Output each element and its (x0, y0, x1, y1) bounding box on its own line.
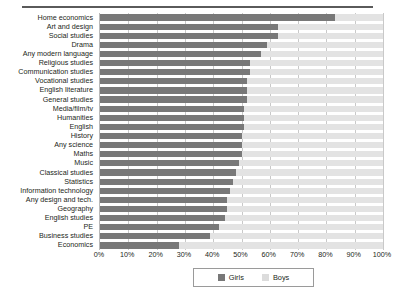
category-label: Humanities (57, 114, 93, 122)
bar-segment-girls (100, 60, 250, 66)
bar-segment-boys (210, 233, 383, 239)
bar-segment-girls (100, 42, 267, 48)
bar-row (100, 206, 383, 212)
category-label: Communication studies (18, 68, 93, 76)
bar-row (100, 151, 383, 157)
category-label: Drama (71, 41, 93, 49)
x-tick-label: 10% (120, 250, 134, 260)
bar-row (100, 96, 383, 102)
category-label: Music (74, 159, 93, 167)
x-tick-label: 90% (346, 250, 360, 260)
bar-row (100, 115, 383, 121)
bar-segment-boys (225, 215, 383, 221)
category-label: Media/film/tv (53, 105, 93, 113)
bar-segment-boys (242, 133, 384, 139)
category-label: Maths (73, 150, 93, 158)
category-axis-labels: Home economicsArt and designSocial studi… (0, 13, 96, 250)
bar-segment-girls (100, 206, 227, 212)
bar-segment-boys (247, 87, 383, 93)
stacked-bar-chart: Home economicsArt and designSocial studi… (0, 0, 395, 295)
bar-row (100, 87, 383, 93)
bar-segment-boys (250, 69, 383, 75)
bar-segment-boys (244, 124, 383, 130)
legend-swatch-girls-icon (218, 274, 225, 281)
legend-label-boys: Boys (273, 274, 289, 282)
plot-area (99, 13, 383, 250)
bar-segment-boys (242, 142, 384, 148)
bar-segment-boys (236, 169, 383, 175)
bar-row (100, 14, 383, 20)
category-label: Any modern language (23, 50, 93, 58)
legend-item-girls: Girls (218, 274, 244, 282)
bar-segment-girls (100, 188, 230, 194)
category-label: General studies (43, 96, 93, 104)
bar-segment-girls (100, 87, 247, 93)
category-label: Geography (57, 205, 93, 213)
bar-row (100, 106, 383, 112)
x-axis-ticks: 0%10%20%30%40%50%60%70%80%90%100% (99, 250, 382, 262)
x-tick-label: 100% (373, 250, 391, 260)
legend-swatch-boys-icon (262, 274, 269, 281)
bar-row (100, 51, 383, 57)
bar-segment-boys (335, 14, 383, 20)
x-tick-label: 80% (318, 250, 332, 260)
chart-legend: Girls Boys (193, 268, 314, 287)
bar-segment-boys (233, 179, 383, 185)
category-label: English studies (45, 214, 93, 222)
bar-segment-boys (179, 242, 383, 248)
bar-row (100, 78, 383, 84)
bar-segment-girls (100, 24, 278, 30)
bar-row (100, 133, 383, 139)
bar-row (100, 233, 383, 239)
bar-segment-girls (100, 215, 225, 221)
bar-segment-girls (100, 96, 247, 102)
bar-segment-girls (100, 106, 244, 112)
x-tick-label: 0% (94, 250, 104, 260)
category-label: English literature (39, 86, 93, 94)
bar-row (100, 197, 383, 203)
bar-segment-boys (239, 160, 383, 166)
bar-segment-boys (247, 96, 383, 102)
bar-segment-girls (100, 197, 227, 203)
category-label: Any science (54, 141, 93, 149)
bar-row (100, 215, 383, 221)
category-label: Information technology (20, 187, 93, 195)
bar-segment-boys (244, 106, 383, 112)
bar-segment-girls (100, 124, 244, 130)
legend-label-girls: Girls (229, 274, 244, 282)
category-label: English (69, 123, 93, 131)
legend-item-boys: Boys (262, 274, 289, 282)
bar-row (100, 169, 383, 175)
category-label: Vocational studies (35, 77, 93, 85)
category-label: Economics (58, 241, 93, 249)
bar-segment-girls (100, 151, 242, 157)
bar-segment-girls (100, 33, 278, 39)
bar-row (100, 42, 383, 48)
bar-row (100, 160, 383, 166)
bar-segment-boys (227, 197, 383, 203)
x-tick-label: 60% (262, 250, 276, 260)
category-label: History (71, 132, 93, 140)
bar-row (100, 33, 383, 39)
category-label: Art and design (47, 23, 93, 31)
bar-row (100, 224, 383, 230)
x-tick-label: 30% (177, 250, 191, 260)
category-label: Any design and tech. (26, 196, 93, 204)
category-label: Classical studies (39, 169, 93, 177)
bar-row (100, 142, 383, 148)
bar-segment-boys (250, 60, 383, 66)
bar-segment-boys (261, 51, 383, 57)
bar-segment-girls (100, 233, 210, 239)
bar-segment-girls (100, 14, 335, 20)
bar-segment-boys (278, 24, 383, 30)
bar-segment-girls (100, 78, 247, 84)
bar-segment-girls (100, 51, 261, 57)
bar-segment-boys (267, 42, 383, 48)
bar-row (100, 188, 383, 194)
bar-segment-girls (100, 69, 250, 75)
bar-segment-girls (100, 142, 242, 148)
bar-segment-boys (230, 188, 383, 194)
bar-segment-girls (100, 115, 244, 121)
bar-segment-girls (100, 133, 242, 139)
bar-row (100, 60, 383, 66)
